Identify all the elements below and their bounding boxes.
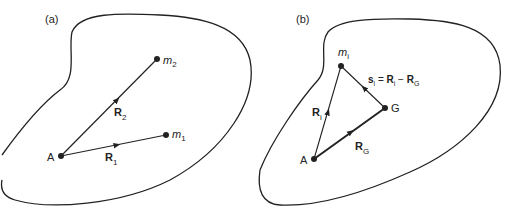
label-a-b: A [300,154,308,166]
vector-rg [314,108,385,159]
point-mi [338,63,344,69]
point-m1 [163,132,169,138]
point-g [382,105,388,111]
point-a [58,153,64,159]
panel-b-label: (b) [296,13,309,25]
label-r1: R1 [105,151,118,167]
label-rg: RG [355,140,369,156]
label-si-equation: si = Ri − RG [368,74,419,87]
label-mi: mi [338,46,349,61]
point-a-b [311,156,317,162]
panel-b: (b) A G mi Ri RG si = Ri − RG [259,13,500,205]
point-m2 [154,56,160,62]
label-m1: m1 [172,128,186,143]
label-a: A [47,151,55,163]
body-outline-a [2,14,252,205]
label-ri: Ri [312,106,322,122]
vector-si [341,66,385,108]
label-r2: R2 [114,106,127,122]
panel-a-label: (a) [45,13,58,25]
vector-r2 [61,59,157,156]
panel-a: (a) A m2 m1 R2 R1 [2,13,252,205]
label-m2: m2 [163,54,177,69]
vector-r1 [61,135,166,156]
diagram-canvas: (a) A m2 m1 R2 R1 (b) A G mi Ri RG si = … [0,0,519,220]
label-g: G [391,102,400,114]
